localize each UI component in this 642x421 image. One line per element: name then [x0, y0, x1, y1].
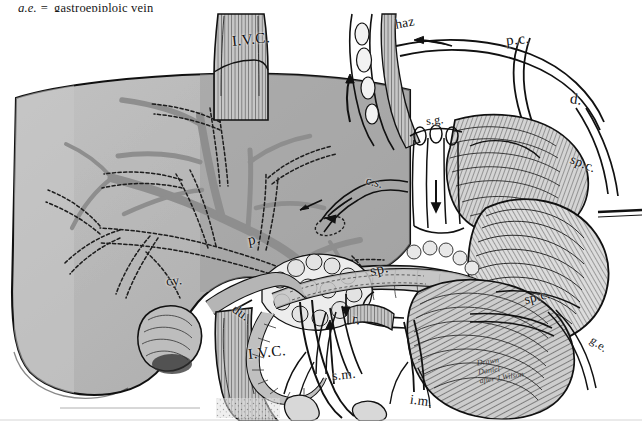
label-cs: c.s. — [365, 174, 384, 190]
anatomical-plate: g.e.=gastroepiploic vein — [0, 0, 642, 421]
figure-canvas — [0, 12, 642, 421]
label-cy: cy. — [165, 273, 182, 288]
label-d: d. — [569, 91, 583, 108]
label-sm: s.m. — [331, 367, 356, 383]
label-p: p. — [247, 231, 262, 248]
label-sg: s.g. — [425, 113, 444, 127]
label-im: i.m. — [409, 393, 433, 409]
label-pc: p.c. — [505, 31, 530, 48]
label-haz: haz — [394, 14, 416, 31]
anatomy-illustration — [0, 12, 642, 421]
